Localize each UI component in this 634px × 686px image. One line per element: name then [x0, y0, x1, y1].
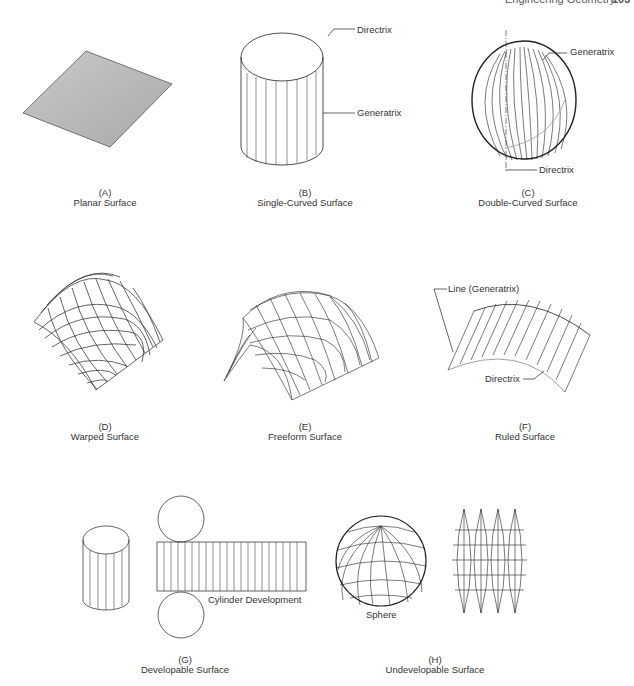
- b-directrix-label: Directrix: [357, 24, 392, 35]
- f-line-generatrix-label: Line (Generatrix): [448, 283, 519, 294]
- caption-name: Developable Surface: [115, 665, 255, 675]
- c-generatrix-label: Generatrix: [570, 46, 614, 57]
- figure-canvas: [0, 0, 634, 686]
- b-generatrix-label: Generatrix: [357, 107, 401, 118]
- caption-h: (H) Undevelopable Surface: [355, 655, 515, 675]
- freeform-surface-drawing: [224, 291, 379, 400]
- caption-a: (A) Planar Surface: [40, 188, 170, 208]
- caption-name: Single-Curved Surface: [225, 198, 385, 208]
- planar-surface-drawing: [23, 51, 172, 147]
- caption-b: (B) Single-Curved Surface: [225, 188, 385, 208]
- caption-g: (G) Developable Surface: [115, 655, 255, 675]
- developable-surface-drawing: [83, 496, 306, 638]
- caption-name: Warped Surface: [40, 432, 170, 442]
- double-curved-drawing: [472, 30, 576, 172]
- caption-name: Ruled Surface: [460, 432, 590, 442]
- caption-c: (C) Double-Curved Surface: [448, 188, 608, 208]
- undevelopable-surface-drawing: [336, 509, 527, 613]
- cylinder-drawing: [241, 29, 355, 165]
- caption-name: Freeform Surface: [235, 432, 375, 442]
- c-directrix-label: Directrix: [539, 164, 574, 175]
- caption-name: Undevelopable Surface: [355, 665, 515, 675]
- caption-name: Planar Surface: [40, 198, 170, 208]
- caption-f: (F) Ruled Surface: [460, 422, 590, 442]
- cylinder-development-label: Cylinder Development: [208, 594, 301, 605]
- caption-d: (D) Warped Surface: [40, 422, 170, 442]
- f-directrix-label: Directrix: [485, 373, 520, 384]
- sphere-label: Sphere: [366, 609, 397, 620]
- caption-name: Double-Curved Surface: [448, 198, 608, 208]
- warped-surface-drawing: [34, 273, 163, 390]
- caption-e: (E) Freeform Surface: [235, 422, 375, 442]
